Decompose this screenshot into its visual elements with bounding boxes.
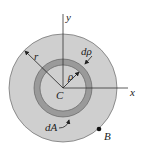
da-label: dA	[45, 121, 58, 133]
drho-label: dρ	[81, 45, 92, 57]
rho-label: ρ	[67, 70, 73, 82]
radius-label: r	[34, 50, 39, 62]
point-b	[97, 127, 102, 132]
x-axis-label: x	[129, 86, 135, 98]
centroid-label: C	[56, 89, 64, 101]
point-b-label: B	[104, 130, 111, 142]
y-axis-label: y	[65, 11, 71, 23]
circular-area-diagram: y x r dρ ρ C dA B	[0, 0, 151, 149]
